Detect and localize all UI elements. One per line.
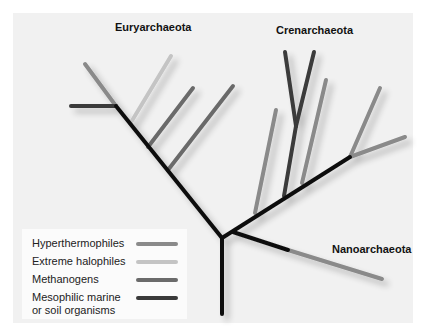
legend-swatch-mesophilic xyxy=(136,296,178,300)
trunk-nanoarchaeota xyxy=(233,232,288,250)
branch-hyperthermophile xyxy=(85,64,116,106)
legend-swatch-extreme-halophiles xyxy=(136,260,178,264)
clade-label-nanoarchaeota: Nanoarchaeota xyxy=(332,243,411,255)
legend-swatch-methanogens xyxy=(136,278,178,282)
legend-label-hyperthermophiles: Hyperthermophiles xyxy=(32,237,124,250)
clade-label-crenarchaeota: Crenarchaeota xyxy=(276,24,353,36)
branch-methanogen xyxy=(148,88,193,147)
legend-swatch-hyperthermophiles xyxy=(136,242,178,246)
branch-hyperthermophile xyxy=(302,80,326,183)
branch-mesophilic xyxy=(284,126,296,196)
trunk-crenarchaeota xyxy=(222,157,350,238)
legend: Hyperthermophiles Extreme halophiles Met… xyxy=(22,229,187,319)
branch-halophile xyxy=(130,56,171,124)
legend-label-mesophilic: Mesophilic marine or soil organisms xyxy=(32,291,132,317)
branch-mesophilic xyxy=(285,52,296,126)
clade-label-euryarchaeota: Euryarchaeota xyxy=(115,21,191,33)
legend-label-methanogens: Methanogens xyxy=(32,273,99,286)
branch-mesophilic xyxy=(296,52,314,126)
branch-methanogen xyxy=(168,86,233,170)
branch-hyperthermophile xyxy=(255,110,276,213)
trunk-euryarchaeota xyxy=(116,106,222,238)
legend-label-extreme-halophiles: Extreme halophiles xyxy=(32,255,126,268)
